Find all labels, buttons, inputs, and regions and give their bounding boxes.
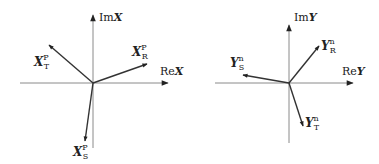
imag-axis-label: ImX (99, 11, 123, 24)
vector-label-y-t: YnT (305, 114, 320, 132)
vector-x-t (49, 45, 93, 83)
real-axis-label: ReY (342, 65, 366, 78)
vector-label-x-t: XPT (33, 53, 50, 71)
vector-label-y-r: YnR (321, 37, 337, 55)
vector-label-x-r: XPR (131, 43, 149, 61)
phasor-diagram-y: ImY ReY YnR YnS YnT (215, 11, 366, 143)
vector-label-y-s: YnS (230, 54, 244, 72)
imag-axis-label: ImY (294, 11, 318, 24)
phasor-diagrams: ImX ReX XPT XPR XPS ImY ReY YnR Y (0, 0, 379, 164)
vector-x-r (93, 64, 147, 83)
real-axis-label: ReX (160, 65, 184, 78)
phasor-diagram-x: ImX ReX XPT XPR XPS (20, 11, 184, 161)
vector-y-s (243, 75, 289, 83)
vector-y-r (289, 46, 319, 83)
vector-x-s (85, 83, 93, 141)
vector-y-t (289, 83, 303, 126)
vector-label-x-s: XPS (72, 143, 88, 161)
